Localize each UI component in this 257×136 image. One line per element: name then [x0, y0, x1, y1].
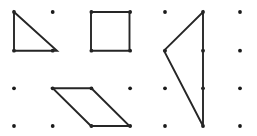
shape-group: [14, 12, 203, 126]
grid-dot-r3-c7: [238, 86, 242, 90]
grid-dot-r4-c5: [163, 124, 167, 128]
grid-dot-r1-c2: [51, 10, 55, 14]
shapes-canvas: [0, 0, 257, 136]
grid-dot-r3-c5: [163, 86, 167, 90]
grid-dot-r4-c1: [12, 124, 16, 128]
grid-dot-r4-c2: [51, 124, 55, 128]
grid-dot-r4-c7: [238, 124, 242, 128]
shape-parallelogram: [53, 88, 130, 126]
grid-dot-r3-c4: [128, 86, 132, 90]
geoboard-figure: [0, 0, 257, 136]
shape-right-triangle: [14, 12, 57, 51]
grid-dot-r2-c7: [238, 49, 242, 53]
grid-dot-r1-c7: [238, 10, 242, 14]
shape-square: [91, 12, 130, 51]
shape-left-pointing-triangle: [164, 12, 203, 126]
grid-dot-r3-c1: [12, 86, 16, 90]
dot-grid: [12, 10, 242, 128]
grid-dot-r1-c5: [163, 10, 167, 14]
